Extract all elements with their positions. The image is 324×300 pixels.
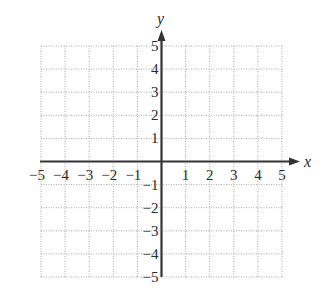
- x-tick-label: 1: [182, 167, 190, 183]
- x-axis-arrow-icon: [289, 158, 300, 166]
- x-tick-label: −3: [77, 167, 93, 183]
- y-axis-label: y: [155, 10, 165, 28]
- y-tick-label: 5: [151, 38, 159, 54]
- y-tick-label: 1: [151, 130, 159, 146]
- coordinate-plane: −5−4−3−2−112345 −5−4−3−2−112345 x y: [0, 0, 324, 300]
- x-tick-label: 4: [254, 167, 262, 183]
- y-tick-label: −2: [143, 200, 159, 216]
- x-tick-label: −2: [101, 167, 117, 183]
- axes: [40, 30, 300, 277]
- y-tick-label: −1: [143, 177, 159, 193]
- y-tick-label: 4: [151, 61, 159, 77]
- y-tick-label: 2: [151, 107, 159, 123]
- y-axis-arrow-icon: [158, 30, 166, 41]
- x-tick-label: −4: [53, 167, 69, 183]
- y-tick-label: −3: [143, 223, 159, 239]
- x-axis-label: x: [303, 153, 311, 170]
- x-tick-label: 5: [278, 167, 286, 183]
- y-tick-label: −5: [143, 269, 159, 285]
- x-tick-label: −5: [29, 167, 45, 183]
- x-tick-label: 2: [206, 167, 214, 183]
- x-tick-label: −1: [125, 167, 141, 183]
- x-tick-label: 3: [230, 167, 238, 183]
- y-tick-label: −4: [143, 246, 159, 262]
- y-tick-label: 3: [151, 84, 159, 100]
